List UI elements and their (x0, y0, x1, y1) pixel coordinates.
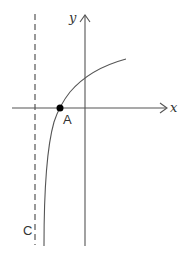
asymptote-label: C (23, 223, 32, 238)
y-axis-label: y (68, 10, 77, 25)
graph-canvas: y x A C (0, 0, 185, 263)
point-a-label: A (63, 112, 72, 127)
x-axis-label: x (170, 100, 178, 115)
point-a (57, 105, 64, 112)
